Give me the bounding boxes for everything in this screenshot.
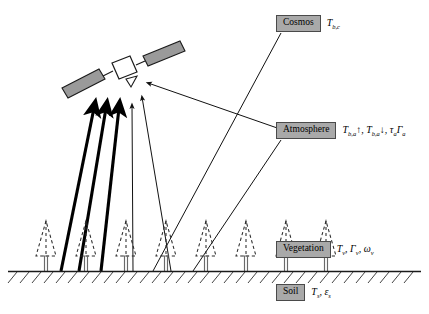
- satellite-antenna-icon: [126, 76, 137, 87]
- tree-6: [236, 221, 256, 256]
- satellite-body: [112, 56, 137, 79]
- cosmos-chip: Cosmos: [276, 15, 321, 32]
- vegetation-label: Vegetation Tv, Γv, ωv: [276, 241, 374, 258]
- thick-arrow-2: [79, 108, 106, 271]
- diagram-canvas: Cosmos Tb,c Atmosphere Tb,a↑, Tb,a↓, τaΓ…: [0, 0, 429, 314]
- satellite-panel-left: [62, 69, 105, 98]
- satellite-icon: [0, 0, 185, 98]
- vegetation-chip: Vegetation: [276, 241, 331, 258]
- soil-chip: Soil: [276, 284, 305, 301]
- thick-arrow-3: [101, 108, 119, 271]
- tree-5: [196, 221, 216, 256]
- atmosphere-chip: Atmosphere: [276, 122, 336, 139]
- soil-label: Soil Ts, εs: [276, 284, 331, 301]
- cosmos-symbols: Tb,c: [327, 17, 340, 30]
- atmosphere-to-satellite-arrow: [148, 83, 283, 130]
- soil-symbols: Ts, εs: [311, 286, 331, 299]
- atmosphere-symbols: Tb,a↑, Tb,a↓, τaΓa: [342, 124, 405, 137]
- cosmos-label: Cosmos Tb,c: [276, 15, 340, 32]
- thick-arrow-1: [61, 108, 94, 271]
- tree-trunks: [43, 256, 329, 271]
- satellite-boom-right: [136, 61, 145, 65]
- soil-hatching: [8, 272, 413, 283]
- satellite-boom-left: [103, 71, 113, 76]
- thin-upwelling-arrows: [132, 97, 171, 271]
- thick-upwelling-arrows: [61, 108, 119, 271]
- atmosphere-label: Atmosphere Tb,a↑, Tb,a↓, τaΓa: [276, 122, 406, 139]
- satellite-panel-right: [143, 41, 185, 66]
- diagram-vector-layer: [0, 0, 429, 314]
- vegetation-symbols: Tv, Γv, ωv: [337, 243, 374, 256]
- tree-1: [36, 221, 56, 256]
